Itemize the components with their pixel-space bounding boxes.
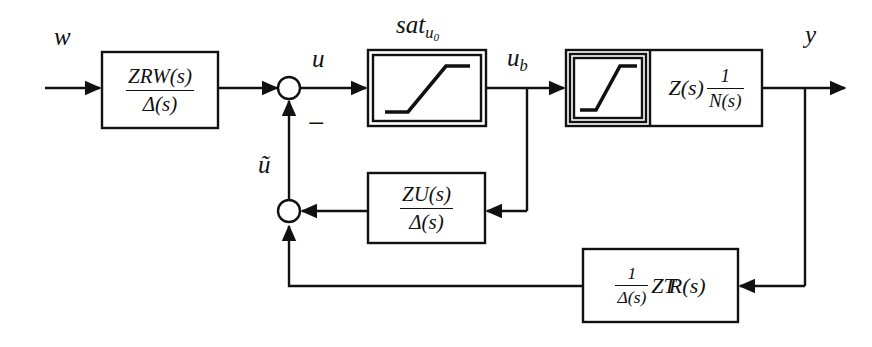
text-rw-transfer-block: ZRW(s) Δ(s) — [102, 52, 218, 128]
summing-junction-lower — [278, 200, 300, 222]
fraction-numerator: ZRW(s) — [126, 64, 194, 91]
label-minus-sign: − — [308, 108, 325, 138]
zu-base: Z — [402, 182, 414, 206]
fraction-one-over-n: 1 N(s) — [707, 65, 744, 112]
label-saturated-ub: ub — [507, 45, 528, 74]
fraction-denominator: Δ(s) — [126, 91, 194, 117]
summing-junction-upper — [278, 77, 300, 99]
zr-base: Z — [651, 273, 663, 298]
text-zr-transpose-feedback-block: 1 Δ(s) ZTR(s) — [583, 249, 738, 322]
plant-z-of-s: Z(s) — [668, 75, 703, 101]
zu-arg: (s) — [429, 182, 451, 206]
zr-expression: ZTR(s) — [651, 273, 705, 299]
text-zu-feedback-block: ZU(s) Δ(s) — [368, 173, 485, 243]
fraction-denominator: Δ(s) — [615, 286, 648, 308]
fraction-denominator: Δ(s) — [400, 209, 453, 235]
zu-subscript: U — [414, 182, 429, 206]
label-u-tilde: ũ — [258, 152, 271, 177]
fraction-numerator: 1 — [707, 65, 744, 89]
label-input-w: w — [54, 24, 71, 49]
fraction-denominator: N(s) — [707, 89, 744, 112]
fraction-numerator: 1 — [615, 263, 648, 286]
zr-subscript-r: R — [669, 273, 682, 298]
label-ub-base: u — [507, 44, 520, 71]
fraction-zrw-delta: ZRW(s) Δ(s) — [126, 64, 194, 117]
fraction-numerator: ZU(s) — [400, 182, 453, 209]
block-diagram-figure: w u − ũ ub y satu0 ZRW(s) Δ(s) Z(s) 1 N(… — [0, 0, 872, 347]
label-output-y: y — [805, 22, 816, 47]
zr-arg: (s) — [682, 273, 705, 298]
zrw-base: Z — [128, 64, 140, 88]
text-plant-block: Z(s) 1 N(s) — [650, 50, 762, 126]
label-sat-u0: satu0 — [396, 12, 439, 44]
label-ub-subscript: b — [520, 56, 528, 75]
label-sat-subscript-zero: 0 — [433, 31, 439, 43]
label-control-u: u — [312, 46, 325, 71]
zrw-arg: (s) — [170, 64, 192, 88]
fraction-zu-delta: ZU(s) Δ(s) — [400, 182, 453, 235]
label-sat-name: sat — [396, 11, 425, 38]
zrw-subscript: RW — [140, 64, 170, 88]
fraction-one-over-delta: 1 Δ(s) — [615, 263, 648, 308]
